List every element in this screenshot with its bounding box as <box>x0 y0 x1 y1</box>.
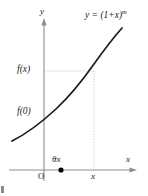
curve-equation-label: y = (1+x)m <box>85 9 127 21</box>
theta-x-label: θx <box>52 155 60 164</box>
x-axis-label: x <box>126 155 130 164</box>
f-of-x-label: f(x) <box>17 65 30 75</box>
y-axis-label: y <box>40 7 44 16</box>
theta-x-point-marker <box>58 167 63 172</box>
page-corner-mark <box>1 186 4 193</box>
figure-canvas <box>0 0 148 196</box>
x-axis-arrowhead <box>130 167 138 172</box>
x-tick-label: x <box>91 172 95 181</box>
function-curve <box>12 28 122 141</box>
f-of-zero-label: f(0) <box>17 107 31 117</box>
figure-container: y = (1+x)m y x f(x) f(0) O θx x <box>0 0 148 196</box>
curve-equation-base: y = (1+x) <box>85 10 122 20</box>
y-axis-arrowhead <box>41 18 46 26</box>
origin-label: O <box>38 172 44 181</box>
curve-equation-exponent: m <box>122 8 127 15</box>
